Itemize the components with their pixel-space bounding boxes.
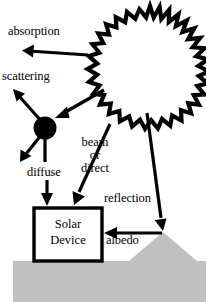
label-beam-or-direct: beam or direct <box>81 136 109 174</box>
scatter-down-arrow <box>20 134 42 162</box>
diffuse-arrow <box>41 180 53 206</box>
label-albedo: albedo <box>106 234 139 247</box>
label-diffuse: diffuse <box>27 166 61 179</box>
solar-device-label: Solar Device <box>34 216 102 248</box>
label-beam: beam <box>81 136 109 149</box>
label-scattering: scattering <box>2 70 50 83</box>
absorption-arrow <box>22 45 88 58</box>
label-or: or <box>81 149 109 162</box>
scattering-particle <box>34 117 57 140</box>
solar-radiation-diagram: absorption scattering diffuse beam or di… <box>0 0 206 302</box>
label-reflection: reflection <box>104 192 151 205</box>
ground-surface <box>13 261 206 302</box>
sun-starburst <box>88 6 207 129</box>
label-absorption: absorption <box>8 25 60 38</box>
device-label-line1: Solar <box>34 216 102 232</box>
reflection-arrow <box>147 113 167 231</box>
hill-triangle <box>129 232 197 261</box>
scattering-arrow <box>13 89 42 122</box>
incoming-scatter-arrow <box>55 90 104 118</box>
label-direct: direct <box>81 162 109 175</box>
device-label-line2: Device <box>34 232 102 248</box>
